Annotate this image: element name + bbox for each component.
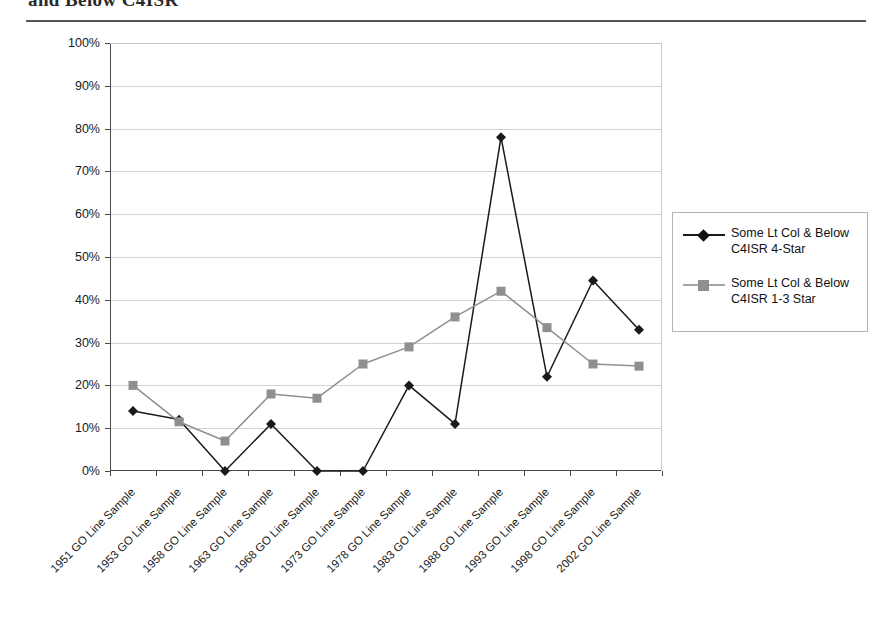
series-4-star (128, 132, 644, 476)
data-point-marker (451, 312, 460, 321)
series-line (133, 137, 639, 471)
legend-label-4-star: Some Lt Col & Below C4ISR 4-Star (731, 225, 863, 257)
series-line (133, 291, 639, 441)
legend-key-square-icon (683, 279, 725, 291)
legend-key-diamond-icon (683, 229, 725, 241)
chart-container: 100%90%80%70%60%50%40%30%20%10%0% 1951 G… (0, 26, 892, 634)
data-point-marker (267, 389, 276, 398)
data-point-marker (313, 394, 322, 403)
data-point-marker (635, 362, 644, 371)
data-point-marker (221, 437, 230, 446)
data-point-marker (496, 132, 506, 142)
legend-label-1-3-star: Some Lt Col & Below C4ISR 1-3 Star (731, 275, 863, 307)
data-point-marker (129, 381, 138, 390)
data-point-marker (542, 372, 552, 382)
data-point-marker (358, 466, 368, 476)
page-title: and Below C4ISR (28, 0, 179, 11)
series-1-3-star (129, 287, 644, 446)
data-point-marker (405, 342, 414, 351)
header-divider (26, 20, 866, 22)
data-point-marker (175, 417, 184, 426)
data-point-marker (589, 360, 598, 369)
page-root: and Below C4ISR 100%90%80%70%60%50%40%30… (0, 0, 892, 634)
data-point-marker (497, 287, 506, 296)
data-point-marker (359, 360, 368, 369)
chart-legend: Some Lt Col & Below C4ISR 4-Star Some Lt… (672, 212, 868, 332)
data-point-marker (128, 406, 138, 416)
data-point-marker (543, 323, 552, 332)
